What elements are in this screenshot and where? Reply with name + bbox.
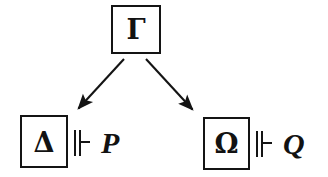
forces-turnstile-icon [256, 131, 272, 157]
node-delta-label: Δ [34, 129, 55, 156]
node-omega-label: Ω [214, 130, 238, 157]
edge-gamma-to-delta [79, 59, 125, 109]
node-gamma-label: Γ [126, 16, 145, 43]
formula-p: P [101, 128, 119, 158]
relation-omega-forces-q: Q [256, 129, 305, 159]
forces-turnstile-icon [74, 130, 90, 156]
edge-gamma-to-omega [146, 59, 193, 110]
node-delta-box: Δ [20, 115, 68, 168]
relation-delta-forces-p: P [74, 128, 119, 158]
formula-q: Q [283, 129, 305, 159]
node-omega-box: Ω [203, 117, 250, 170]
node-gamma-box: Γ [111, 5, 161, 54]
forcing-diagram: Γ Δ Ω P Q [0, 0, 328, 177]
